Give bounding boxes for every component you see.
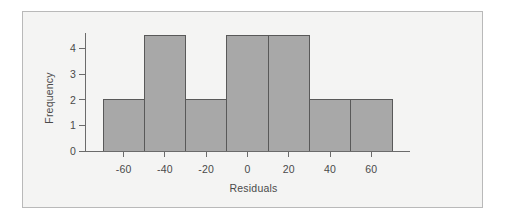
x-axis-tick-label: 60 xyxy=(365,163,377,175)
histogram-bar xyxy=(268,36,309,151)
bars-group xyxy=(103,36,392,151)
y-axis-tick-label: 4 xyxy=(58,42,76,54)
histogram-bar xyxy=(309,100,350,151)
histogram-bar xyxy=(351,100,392,151)
x-axis-title: Residuals xyxy=(0,182,507,194)
x-axis-tick-label: 20 xyxy=(283,163,295,175)
histogram-bar xyxy=(144,36,185,151)
x-axis-tick-label: -20 xyxy=(198,163,214,175)
x-axis-tick-label: -60 xyxy=(116,163,132,175)
y-axis-tick-label: 0 xyxy=(58,145,76,157)
x-axis-tick-label: -40 xyxy=(157,163,173,175)
y-axis-title: Frequency xyxy=(43,68,55,128)
y-axis-tick-label: 1 xyxy=(58,119,76,131)
x-axis-tick-label: 40 xyxy=(324,163,336,175)
histogram-bar xyxy=(227,36,268,151)
histogram-bar xyxy=(186,100,227,151)
y-axis-tick-label: 2 xyxy=(58,94,76,106)
x-axis-tick-label: 0 xyxy=(244,163,250,175)
y-axis-tick-label: 3 xyxy=(58,68,76,80)
histogram-figure: 01234 -60-40-200204060 Frequency Residua… xyxy=(0,0,507,223)
histogram-bar xyxy=(103,100,144,151)
